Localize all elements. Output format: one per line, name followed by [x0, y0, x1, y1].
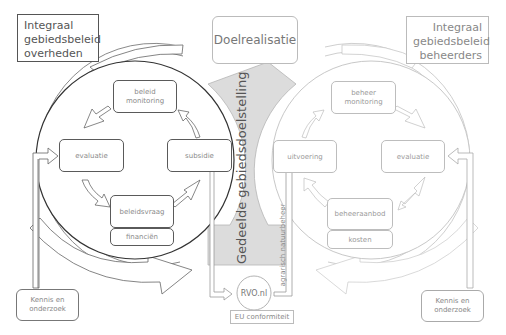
left-title-line-1: Integraal: [24, 19, 92, 33]
right-node-kosten: kosten: [327, 230, 393, 249]
left-node-financien: financiën: [110, 228, 174, 246]
right-panel-title: Integraal gebiedsbeleid beheerders: [406, 16, 489, 64]
shared-goal-label: Gedeelde gebiedsdoelstelling: [234, 84, 250, 264]
right-kennis-box: Kennis en onderzoek: [421, 290, 484, 322]
left-title-line-3: overheden: [24, 47, 92, 61]
left-kennis-box: Kennis en onderzoek: [16, 289, 79, 321]
eu-compliance-box: EU conformiteit: [230, 310, 294, 324]
goal-box: Doelrealisatie: [212, 16, 298, 64]
right-node-uitvoering: uitvoering: [273, 140, 337, 173]
right-node-beheer-monitoring: beheer monitoring: [331, 81, 396, 114]
right-title-line-1: Integraal: [413, 21, 482, 35]
left-node-subsidie: subsidie: [167, 139, 232, 172]
left-node-evaluatie: evaluatie: [59, 139, 124, 172]
right-title-line-2: gebiedsbeleid: [413, 35, 482, 49]
left-node-beleidsvraag: beleidsvraag: [110, 195, 174, 228]
right-node-evaluatie: evaluatie: [381, 140, 445, 173]
right-title-line-3: beheerders: [413, 49, 482, 63]
left-title-line-2: gebiedsbeleid: [24, 33, 92, 47]
left-node-beleid-monitoring: beleid monitoring: [113, 80, 177, 113]
left-panel-title: Integraal gebiedsbeleid overheden: [17, 14, 99, 62]
agrarisch-label: agrarisch natuurbeheer: [279, 190, 289, 300]
right-node-beheeraanbod: beheeraanbod: [327, 198, 393, 230]
rvo-label: RVO.nl: [237, 286, 271, 300]
